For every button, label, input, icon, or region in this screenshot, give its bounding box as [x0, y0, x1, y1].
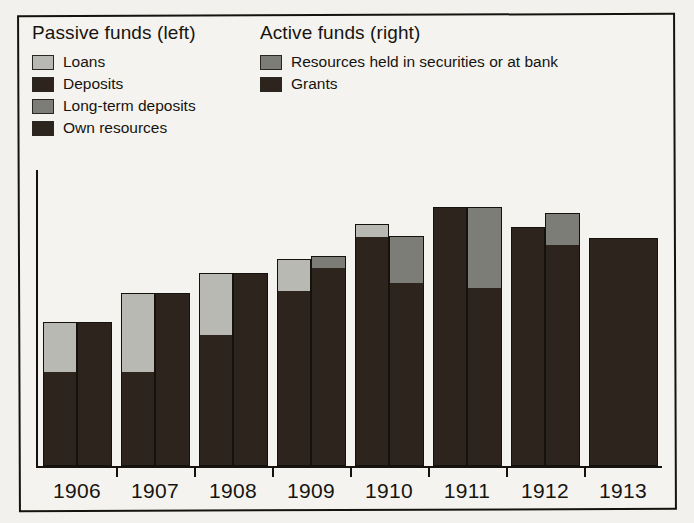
legend-heading-passive: Passive funds (left) [32, 22, 196, 44]
bar-active-1913[interactable] [589, 238, 658, 466]
legend-item-long-term-deposits: Long-term deposits [32, 95, 196, 117]
bar-active-1911-securities-segment [468, 208, 501, 289]
x-axis-label-1911: 1911 [428, 479, 506, 503]
bar-passive-1908-loans-segment [200, 274, 233, 334]
bar-active-1912[interactable] [545, 213, 580, 466]
legend-swatch-loans [32, 55, 54, 70]
x-axis-tick-1907 [116, 468, 118, 477]
x-axis-label-1913: 1913 [584, 479, 662, 503]
legend-swatch-deposits [32, 77, 54, 92]
x-axis-label-1910: 1910 [350, 479, 428, 503]
legend-swatch-long-term-deposits [32, 99, 54, 114]
x-axis-line [36, 466, 662, 468]
x-axis-tick-1910 [350, 468, 352, 477]
bar-passive-1909-loans-segment [278, 260, 311, 292]
x-axis-label-1912: 1912 [506, 479, 584, 503]
bar-passive-1906-loans-segment [44, 323, 77, 372]
legend-item-deposits: Deposits [32, 73, 196, 95]
bar-active-1907[interactable] [155, 293, 190, 466]
x-axis-tick-1908 [194, 468, 196, 477]
bar-passive-1908[interactable] [199, 273, 234, 466]
x-axis-label-1909: 1909 [272, 479, 350, 503]
x-axis-tick-1912 [506, 468, 508, 477]
x-axis-label-1907: 1907 [116, 479, 194, 503]
bar-active-1908[interactable] [233, 273, 268, 466]
x-axis-tick-1911 [428, 468, 430, 477]
bar-active-1909-securities-segment [312, 257, 345, 269]
legend-label-long-term-deposits: Long-term deposits [63, 98, 196, 114]
bar-passive-1912[interactable] [511, 227, 546, 466]
legend-group-passive-funds: Passive funds (left) Loans Deposits Long… [32, 22, 196, 139]
bar-passive-1907[interactable] [121, 293, 156, 466]
bar-passive-1909[interactable] [277, 259, 312, 466]
legend-item-own-resources: Own resources [32, 117, 196, 139]
x-axis-label-1908: 1908 [194, 479, 272, 503]
legend-label-grants: Grants [291, 76, 338, 92]
bar-passive-1910-loans-segment [356, 225, 389, 237]
x-axis-label-1906: 1906 [38, 479, 116, 503]
legend-heading-active: Active funds (right) [260, 22, 558, 44]
bar-passive-1911[interactable] [433, 207, 468, 466]
bar-active-1910[interactable] [389, 236, 424, 466]
legend-swatch-resources-held [260, 55, 282, 70]
legend-item-grants: Grants [260, 73, 558, 95]
bar-passive-1906[interactable] [43, 322, 78, 466]
bar-passive-1910[interactable] [355, 224, 390, 466]
legend-group-active-funds: Active funds (right) Resources held in s… [260, 22, 558, 95]
bar-passive-1907-loans-segment [122, 294, 155, 372]
x-axis-tick-1909 [272, 468, 274, 477]
legend-item-loans: Loans [32, 51, 196, 73]
legend-label-own-resources: Own resources [63, 120, 167, 136]
bar-active-1906[interactable] [77, 322, 112, 466]
bar-active-1910-securities-segment [390, 237, 423, 283]
legend-item-resources-held: Resources held in securities or at bank [260, 51, 558, 73]
legend-swatch-own-resources [32, 121, 54, 136]
legend-label-loans: Loans [63, 54, 105, 70]
bar-active-1912-securities-segment [546, 214, 579, 246]
y-axis-line [36, 170, 38, 468]
x-axis-tick-1913 [584, 468, 586, 477]
legend-label-resources-held: Resources held in securities or at bank [291, 54, 558, 70]
bar-active-1911[interactable] [467, 207, 502, 466]
legend-swatch-grants [260, 77, 282, 92]
chart-figure: Passive funds (left) Loans Deposits Long… [0, 0, 694, 523]
legend-label-deposits: Deposits [63, 76, 123, 92]
bar-active-1909[interactable] [311, 256, 346, 466]
